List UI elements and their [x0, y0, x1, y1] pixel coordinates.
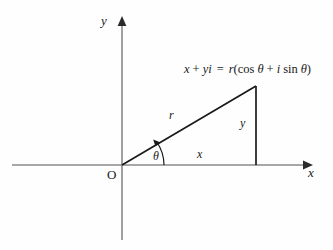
- equation-plus-second: +: [267, 62, 274, 76]
- vertical-leg-label: y: [240, 117, 245, 129]
- equation-plus: +: [193, 62, 200, 76]
- equation-equals: =: [217, 62, 224, 76]
- hypotenuse-label: r: [169, 109, 174, 121]
- x-axis-label: x: [308, 166, 314, 179]
- y-axis-arrowhead: [118, 16, 127, 26]
- equation-lhs-x: x: [184, 62, 190, 76]
- equation-imaginary-unit: i: [277, 62, 280, 76]
- y-axis-label: y: [101, 14, 107, 27]
- equation-close-paren: ): [307, 62, 311, 76]
- polar-form-equation: x+yi=r(cosθ+isinθ): [184, 63, 311, 76]
- equation-cos: cos: [238, 62, 255, 76]
- complex-number-diagram: y x O r x y θ x+yi=r(cosθ+isinθ): [0, 0, 333, 250]
- equation-sin: sin: [283, 62, 298, 76]
- origin-label: O: [107, 168, 116, 181]
- diagram-canvas: [0, 0, 333, 250]
- angle-label: θ: [153, 150, 159, 162]
- equation-lhs-yi: yi: [203, 62, 212, 76]
- hypotenuse-segment: [122, 86, 256, 165]
- equation-theta-first: θ: [257, 62, 263, 76]
- horizontal-leg-label: x: [197, 148, 202, 160]
